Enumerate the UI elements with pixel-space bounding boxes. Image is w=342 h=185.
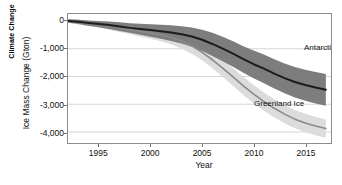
x-tick-mark <box>254 144 255 147</box>
x-tick-label: 2000 <box>141 148 160 158</box>
x-tick-label: 1995 <box>89 148 108 158</box>
y-tick-label: -2,000 <box>28 72 64 80</box>
y-tick-label: 0 <box>28 16 64 24</box>
series-label-greenland-ice: Greenland Ice <box>254 99 304 108</box>
y-tick-label: -3,000 <box>28 101 64 109</box>
climate-ice-mass-figure: Climate Change Ice Mass Change (Gton) 0-… <box>0 0 342 185</box>
figure-section-heading: Climate Change <box>8 0 15 64</box>
x-tick-label: 2010 <box>245 148 264 158</box>
x-tick-label: 2005 <box>193 148 212 158</box>
x-tick-mark <box>150 144 151 147</box>
uncertainty-band-antarctic-ice <box>68 19 326 106</box>
plot-area: Antarctic Ice Greenland Ice <box>67 13 332 144</box>
series-label-antarctic-ice: Antarctic Ice <box>304 43 332 52</box>
y-tick-label: -1,000 <box>28 44 64 52</box>
x-tick-mark <box>98 144 99 147</box>
x-axis-ticks: 19952000200520102015 <box>0 146 342 160</box>
plot-svg <box>68 14 331 143</box>
x-axis-title-text: Year <box>195 160 212 170</box>
x-tick-mark <box>306 144 307 147</box>
x-axis-title: Year <box>0 160 342 170</box>
x-tick-mark <box>202 144 203 147</box>
x-tick-label: 2015 <box>297 148 316 158</box>
y-tick-label: -4,000 <box>28 129 64 137</box>
